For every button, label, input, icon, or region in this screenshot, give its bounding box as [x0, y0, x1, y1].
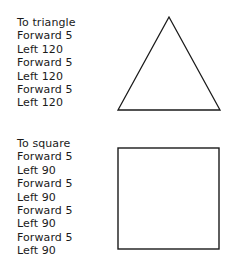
- shapes-canvas: [0, 0, 230, 258]
- triangle-shape: [118, 17, 220, 110]
- square-shape: [118, 148, 219, 249]
